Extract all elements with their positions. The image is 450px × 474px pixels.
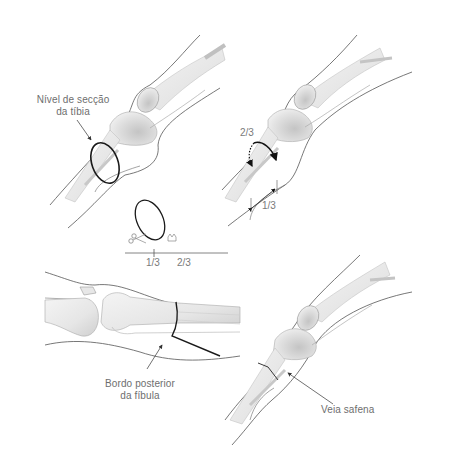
label-saphenous-vein: Veia safena: [321, 404, 374, 416]
label-tibia-section-line1: Nível de secção: [28, 94, 118, 106]
scale-label-one-third: 1/3: [146, 257, 160, 268]
panel-center-inset-scale: [125, 195, 228, 257]
label-fraction-two-thirds: 2/3: [240, 127, 254, 138]
label-fibula-line1: Bordo posterior: [95, 378, 185, 390]
label-tibia-section-level: Nível de secção da tíbia: [28, 94, 118, 118]
label-fraction-one-third: 1/3: [262, 200, 276, 211]
label-fibula-line2: da fíbula: [95, 390, 185, 402]
panel-top-left-knee: [50, 35, 225, 228]
label-tibia-section-line2: da tíbia: [28, 106, 118, 118]
saw-icon: [168, 234, 176, 241]
scissors-icon: [129, 234, 146, 243]
scale-label-two-thirds: 2/3: [177, 257, 191, 268]
panel-bottom-right-knee: [225, 255, 412, 445]
amputation-illustration: [0, 0, 450, 474]
label-fibula-posterior-border: Bordo posterior da fíbula: [95, 378, 185, 402]
panel-bottom-left-leg-lateral: [45, 272, 240, 369]
